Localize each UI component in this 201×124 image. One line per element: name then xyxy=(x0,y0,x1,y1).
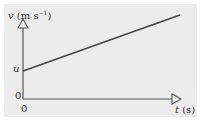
y-axis-label: v (m s−1) xyxy=(8,10,51,21)
y-axis-symbol: v xyxy=(8,10,14,21)
origin-y-label: 0 xyxy=(15,91,21,101)
x-axis-unit: (s) xyxy=(182,104,195,115)
x-axis-arrow-icon xyxy=(172,94,181,104)
x-axis-label: t (s) xyxy=(175,105,195,115)
y-axis-unit-close: ) xyxy=(47,10,51,21)
y-axis-unit: (m s xyxy=(17,10,39,21)
velocity-line xyxy=(23,15,180,71)
origin-x-label: 0 xyxy=(21,104,27,114)
y-intercept-label: u xyxy=(13,64,19,74)
x-axis-symbol: t xyxy=(175,104,179,115)
